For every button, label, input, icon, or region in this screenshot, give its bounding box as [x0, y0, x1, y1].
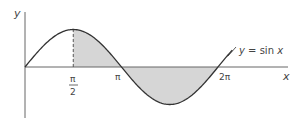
x-axis-label: x — [282, 70, 290, 83]
tick-label-pi-half-denominator: 2 — [70, 87, 76, 97]
shaded-region-1 — [122, 67, 219, 105]
function-label: y = sin x — [238, 45, 283, 56]
sine-chart: y x π 2 π 2π y = sin x — [0, 0, 308, 126]
label-leader-line — [228, 47, 236, 56]
shaded-region-0 — [73, 30, 121, 68]
tick-label-pi: π — [115, 72, 121, 82]
tick-label-two-pi: 2π — [219, 72, 231, 82]
tick-label-pi-half-numerator: π — [70, 74, 76, 84]
y-axis-label: y — [13, 7, 21, 20]
